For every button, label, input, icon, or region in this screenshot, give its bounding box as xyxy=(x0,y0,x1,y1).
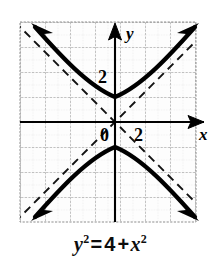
equation-constant: 4 xyxy=(103,233,116,255)
origin-label: 0 xyxy=(100,126,109,144)
y-tick-label-2: 2 xyxy=(98,68,107,86)
x-tick-label-2: 2 xyxy=(134,126,143,144)
equation-equals-sign: = xyxy=(89,233,103,255)
equation-lhs-variable: y xyxy=(74,233,83,255)
equation-plus-sign: + xyxy=(117,233,131,255)
x-axis-label: x xyxy=(199,126,208,143)
graph-canvas xyxy=(0,0,221,271)
equation-rhs-variable: x xyxy=(130,233,140,255)
equation-caption: y2=4+x2 xyxy=(0,233,221,256)
y-axis-label: y xyxy=(126,25,134,42)
hyperbola-figure: y x 2 0 2 y2=4+x2 xyxy=(0,0,221,271)
equation-rhs-exponent: 2 xyxy=(141,232,147,246)
